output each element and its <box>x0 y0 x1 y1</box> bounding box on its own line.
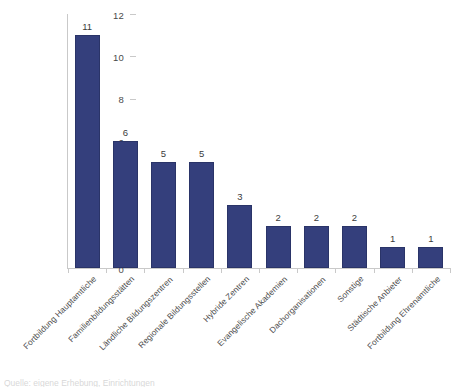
bar[interactable]: 5 <box>151 162 176 268</box>
x-axis-tick <box>450 268 451 273</box>
x-axis-tick <box>297 268 298 273</box>
category-label: Evangelische Akademien <box>215 274 289 348</box>
x-axis-tick <box>412 268 413 273</box>
bar-value-label: 6 <box>123 127 128 138</box>
bar-value-label: 5 <box>199 148 204 159</box>
category-label: Familienbildungsstätten <box>66 274 136 344</box>
category-label: Sonstige <box>335 274 365 304</box>
y-axis-tick: 8 <box>130 99 136 100</box>
x-axis-tick <box>106 268 107 273</box>
bar-chart-figure: 024681012 11655322211 Fortbildung Haupta… <box>0 0 455 387</box>
bar[interactable]: 6 <box>113 141 138 268</box>
bar-value-label: 1 <box>390 233 395 244</box>
category-label: Fortbildung Hauptamtliche <box>21 274 98 351</box>
bar-value-label: 3 <box>237 191 242 202</box>
x-axis-tick <box>335 268 336 273</box>
y-axis-tick: 10 <box>130 56 136 57</box>
x-axis-tick <box>144 268 145 273</box>
y-axis-tick-label: 8 <box>119 94 124 105</box>
bar[interactable]: 1 <box>380 247 405 268</box>
x-axis-tick <box>68 268 69 273</box>
y-axis-tick-label: 12 <box>113 9 124 20</box>
source-note: Quelle: eigene Erhebung, Einrichtungen <box>4 378 155 387</box>
bar[interactable]: 5 <box>189 162 214 268</box>
plot-area: 024681012 11655322211 <box>68 14 450 268</box>
bar-value-label: 1 <box>428 233 433 244</box>
bar-value-label: 2 <box>314 212 319 223</box>
x-axis-tick <box>259 268 260 273</box>
bar-value-label: 2 <box>275 212 280 223</box>
bar-value-label: 2 <box>352 212 357 223</box>
bar[interactable]: 2 <box>266 226 291 268</box>
bar-value-label: 5 <box>161 148 166 159</box>
y-axis-tick: 0 <box>130 268 136 269</box>
bar[interactable]: 11 <box>75 35 100 268</box>
bar[interactable]: 2 <box>342 226 367 268</box>
category-label: Fortbildung Ehrenamtliche <box>365 274 442 351</box>
x-axis-tick <box>221 268 222 273</box>
category-label: Ländliche Bildungszentren <box>97 274 175 352</box>
bar[interactable]: 3 <box>227 205 252 269</box>
x-axis-tick <box>183 268 184 273</box>
y-axis-tick-label: 10 <box>113 51 124 62</box>
bar[interactable]: 2 <box>304 226 329 268</box>
bar-value-label: 11 <box>82 21 92 32</box>
x-axis-tick <box>374 268 375 273</box>
bar[interactable]: 1 <box>418 247 443 268</box>
y-axis-tick: 12 <box>130 14 136 15</box>
category-label: Regionale Bildungsstellen <box>136 274 212 350</box>
